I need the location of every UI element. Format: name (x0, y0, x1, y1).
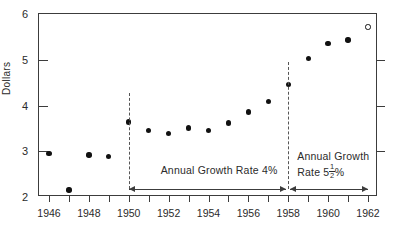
x-axis-tick (189, 195, 190, 202)
data-point-marker (226, 120, 231, 125)
y-axis-tick-label: 4 (22, 100, 28, 112)
data-point-marker (146, 128, 151, 133)
annotation-rate-suffix: % (335, 166, 345, 178)
data-point-marker (186, 125, 191, 130)
arrow-head-left-icon (129, 186, 135, 192)
divider-line-1950 (129, 93, 130, 189)
data-point-marker (266, 99, 271, 104)
x-axis-tick (169, 195, 170, 202)
y-axis-tick-right (376, 151, 385, 152)
y-axis-tick-label: 2 (22, 191, 28, 203)
x-axis-tick-label: 1958 (277, 207, 300, 219)
x-axis-tick (368, 195, 369, 202)
x-axis-tick (248, 195, 249, 202)
x-axis-tick (268, 195, 269, 202)
dollars-scatter-chart: Dollars 23456 19461948195019521954195619… (0, 0, 395, 233)
arrow-head-left-icon (290, 186, 296, 192)
x-axis-tick (228, 195, 229, 202)
x-axis-tick (288, 195, 289, 202)
data-point-marker (86, 152, 91, 157)
arrow-head-right-icon (362, 186, 368, 192)
data-point-marker (106, 154, 111, 159)
x-axis-tick-label: 1950 (117, 207, 140, 219)
annotation-rate-prefix: Rate 5 (297, 166, 329, 178)
x-axis-tick-label: 1952 (157, 207, 180, 219)
annotation-growth-rate-4pct: Annual Growth Rate 4% (161, 164, 278, 177)
x-axis-tick (129, 195, 130, 202)
data-point-marker (325, 41, 330, 46)
y-axis-tick (39, 106, 48, 107)
x-axis-tick (328, 195, 329, 202)
y-axis-tick (39, 60, 48, 61)
x-axis-tick (49, 195, 50, 202)
y-axis-tick-label: 5 (22, 54, 28, 66)
x-axis-tick-label: 1962 (356, 207, 379, 219)
annotation-line-2: Rate 512% (297, 163, 369, 179)
divider-line-1958 (288, 62, 289, 189)
data-point-marker (166, 131, 171, 136)
data-point-marker (246, 109, 251, 114)
annotation-growth-rate-5half-pct: Annual Growth Rate 512% (297, 150, 369, 179)
x-axis-tick (209, 195, 210, 202)
data-point-marker (345, 37, 350, 42)
x-axis-tick (69, 195, 70, 202)
y-axis-tick-right (376, 60, 385, 61)
x-axis-tick-label: 1946 (37, 207, 60, 219)
x-axis-tick-label: 1948 (77, 207, 100, 219)
x-axis-tick (89, 195, 90, 202)
plot-area: 23456 1946194819501952195419561958196019… (38, 13, 377, 196)
y-axis-tick-label: 3 (22, 145, 28, 157)
x-axis-tick (348, 195, 349, 202)
x-axis-tick-label: 1960 (316, 207, 339, 219)
x-axis-tick (308, 195, 309, 202)
x-axis-tick-label: 1954 (197, 207, 220, 219)
x-axis-tick (149, 195, 150, 202)
y-axis-title: Dollars (1, 62, 12, 95)
y-axis-tick-label: 6 (22, 8, 28, 20)
data-point-marker (46, 151, 51, 156)
y-axis-tick-right (376, 106, 385, 107)
data-point-marker (66, 187, 71, 192)
arrow-head-right-icon (280, 186, 286, 192)
x-axis-tick-label: 1956 (237, 207, 260, 219)
data-point-marker (365, 24, 370, 29)
x-axis-tick (109, 195, 110, 202)
growth-span-arrow-right (290, 189, 368, 190)
growth-span-arrow-left (129, 189, 287, 190)
data-point-marker (306, 56, 311, 61)
data-point-marker (206, 128, 211, 133)
